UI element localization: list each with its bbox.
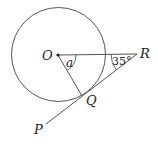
- label-Q: Q: [86, 93, 97, 108]
- label-O: O: [42, 48, 53, 63]
- diagram-canvas: O a 35° R Q P: [0, 0, 158, 144]
- geometry-diagram: O a 35° R Q P: [0, 0, 158, 144]
- center-point-O: [56, 53, 59, 56]
- label-P: P: [33, 122, 43, 137]
- label-R: R: [139, 46, 150, 61]
- label-a: a: [66, 56, 73, 70]
- label-35-degrees: 35°: [112, 55, 132, 68]
